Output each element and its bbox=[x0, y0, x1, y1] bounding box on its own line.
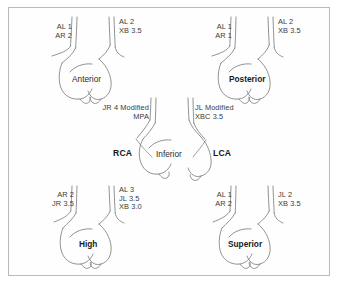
posterior-left-catheter-label: AL 1 AR 1 bbox=[190, 23, 232, 40]
rca-label: RCA bbox=[113, 148, 132, 158]
high-left-catheter-label: AR 2 JR 3.5 bbox=[32, 191, 74, 208]
inferior-left-catheter-label: JR 4 Modified MPA bbox=[96, 104, 149, 121]
superior-right-catheter-label: JL 2 XB 3.5 bbox=[278, 191, 326, 208]
high-view-name: High bbox=[79, 239, 97, 249]
posterior-view-name: Posterior bbox=[229, 74, 265, 84]
aortic-arch-diagram bbox=[0, 0, 349, 284]
inferior-view-name: Inferior bbox=[156, 149, 182, 159]
lca-label: LCA bbox=[213, 148, 231, 158]
superior-left-catheter-label: AL 1 AR 2 bbox=[190, 191, 232, 208]
inferior-right-catheter-label: JL Modified XBC 3.5 bbox=[195, 104, 251, 121]
high-right-catheter-label: AL 3 JL 3.5 XB 3.0 bbox=[119, 186, 167, 212]
anterior-right-catheter-label: AL 2 XB 3.5 bbox=[119, 18, 167, 35]
anterior-view-name: Anterior bbox=[72, 74, 101, 84]
anterior-left-catheter-label: AL 1 AR 2 bbox=[30, 23, 72, 40]
posterior-right-catheter-label: AL 2 XB 3.5 bbox=[278, 18, 326, 35]
superior-view-name: Superior bbox=[228, 239, 262, 249]
